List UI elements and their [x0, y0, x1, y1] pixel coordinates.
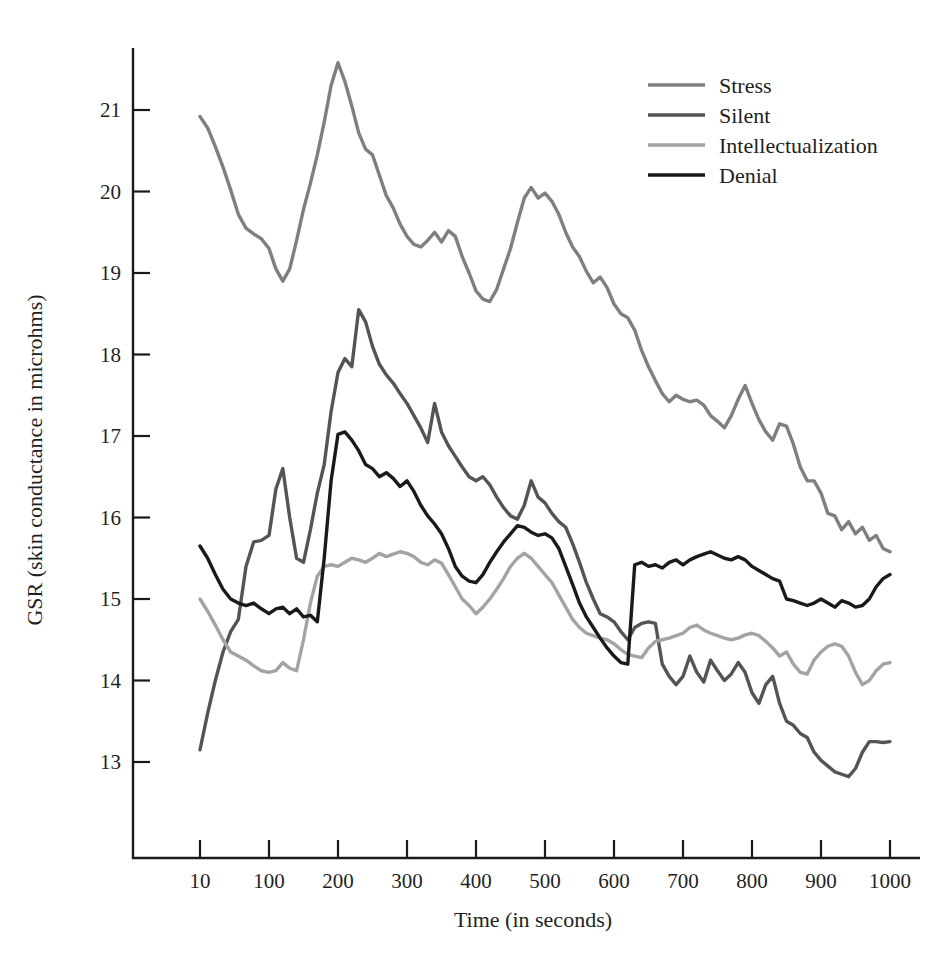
y-tick-label: 16 — [100, 506, 121, 530]
x-tick-label: 100 — [253, 869, 285, 893]
y-tick-label: 19 — [100, 261, 121, 285]
gsr-line-chart: 131415161718192021 101002003004005006007… — [0, 0, 937, 964]
y-tick-label: 17 — [100, 424, 121, 448]
x-tick-label: 200 — [322, 869, 354, 893]
legend-label-intellectualization: Intellectualization — [719, 133, 878, 158]
chart-legend: StressSilentIntellectualizationDenial — [648, 73, 878, 188]
x-axis-title: Time (in seconds) — [454, 907, 612, 932]
y-tick-label: 15 — [100, 587, 121, 611]
x-tick-label: 10 — [190, 869, 211, 893]
y-tick-marks — [133, 110, 150, 762]
x-tick-label: 800 — [736, 869, 768, 893]
x-tick-labels: 101002003004005006007008009001000 — [190, 869, 912, 893]
axis-group — [133, 48, 920, 858]
x-tick-label: 700 — [667, 869, 699, 893]
legend-label-stress: Stress — [719, 73, 772, 98]
series-line-silent — [200, 310, 890, 777]
x-tick-label: 900 — [805, 869, 837, 893]
x-tick-label: 300 — [391, 869, 423, 893]
y-tick-labels: 131415161718192021 — [100, 98, 122, 774]
y-tick-label: 13 — [100, 750, 121, 774]
series-line-denial — [200, 432, 890, 664]
data-series-group — [200, 63, 890, 777]
y-tick-label: 18 — [100, 343, 121, 367]
legend-label-denial: Denial — [719, 163, 778, 188]
x-tick-label: 400 — [460, 869, 492, 893]
x-tick-marks — [200, 840, 890, 858]
y-tick-label: 14 — [100, 669, 122, 693]
axis-lines — [133, 48, 920, 858]
x-tick-label: 600 — [598, 869, 630, 893]
y-tick-label: 21 — [100, 98, 121, 122]
x-tick-label: 1000 — [869, 869, 911, 893]
y-axis-title: GSR (skin conductance in microhms) — [22, 294, 47, 625]
x-tick-label: 500 — [529, 869, 561, 893]
legend-label-silent: Silent — [719, 103, 770, 128]
chart-canvas: 131415161718192021 101002003004005006007… — [0, 0, 937, 964]
y-tick-label: 20 — [100, 180, 121, 204]
